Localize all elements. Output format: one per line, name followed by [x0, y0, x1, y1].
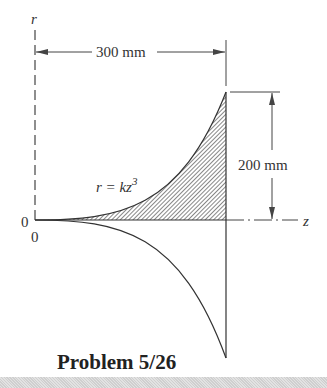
lower-curve — [35, 220, 226, 358]
origin-left-label: 0 — [21, 214, 29, 230]
problem-title: Problem 5/26 — [57, 350, 176, 375]
diagram-canvas: r z 0 0 300 mm 200 mm r = kz3 — [0, 0, 327, 388]
arrow-left-icon — [36, 49, 48, 55]
width-dimension-label: 300 mm — [96, 44, 146, 60]
arrow-down-icon — [269, 207, 275, 219]
r-axis-label: r — [31, 11, 37, 27]
height-dimension-label: 200 mm — [238, 157, 288, 173]
z-axis-label: z — [302, 213, 309, 229]
shaded-area — [35, 92, 226, 220]
bottom-band — [0, 377, 327, 388]
arrow-up-icon — [269, 93, 275, 105]
origin-below-label: 0 — [31, 229, 39, 245]
arrow-right-icon — [213, 49, 225, 55]
curve-equation: r = kz3 — [96, 175, 138, 195]
